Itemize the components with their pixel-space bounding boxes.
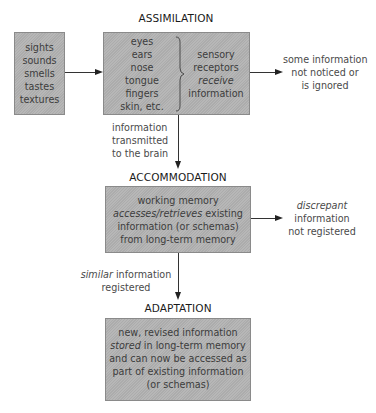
- sense-organ: ears: [108, 48, 176, 61]
- stimulus-item: textures: [15, 93, 64, 106]
- sense-organ: nose: [108, 61, 176, 74]
- sense-organs-list: eyes ears nose tongue fingers skin, etc.: [108, 35, 176, 113]
- discrepant-note: discrepant information not registered: [286, 199, 358, 238]
- stimulus-item: tastes: [15, 80, 64, 93]
- arrowhead-down-icon: [175, 161, 181, 169]
- similar-note: similar information registered: [80, 268, 172, 294]
- arrow-to-adaptation: [178, 253, 179, 294]
- sense-organ: skin, etc.: [108, 100, 176, 113]
- accommodation-title: ACCOMMODATION: [118, 171, 238, 183]
- sense-organ: tongue: [108, 74, 176, 87]
- stimuli-box: sights sounds smells tastes textures: [14, 32, 65, 115]
- transmit-note: information transmitted to the brain: [112, 121, 170, 160]
- stimulus-item: sights: [15, 41, 64, 54]
- sense-organ: fingers: [108, 87, 176, 100]
- arrow-to-discrepant: [251, 218, 276, 219]
- arrowhead-down-icon: [175, 292, 181, 300]
- ignored-note: some information not noticed or is ignor…: [283, 53, 367, 92]
- adaptation-box: new, revised information stored in long-…: [105, 318, 251, 401]
- arrow-stimuli-to-senses: [65, 72, 96, 73]
- arrow-to-accommodation: [178, 115, 179, 163]
- sense-organ: eyes: [108, 35, 176, 48]
- adaptation-title: ADAPTATION: [128, 302, 228, 314]
- stimulus-item: smells: [15, 67, 64, 80]
- arrow-to-ignored: [250, 72, 276, 73]
- sensory-receptors-text: sensory receptors receive information: [184, 48, 248, 100]
- stimulus-item: sounds: [15, 54, 64, 67]
- assimilation-box: eyes ears nose tongue fingers skin, etc.…: [103, 32, 250, 115]
- arrowhead-right-icon: [275, 69, 283, 75]
- arrowhead-right-icon: [275, 215, 283, 221]
- arrowhead-right-icon: [95, 69, 103, 75]
- assimilation-title: ASSIMILATION: [126, 12, 226, 24]
- accommodation-box: working memory accesses/retrieves existi…: [105, 186, 251, 253]
